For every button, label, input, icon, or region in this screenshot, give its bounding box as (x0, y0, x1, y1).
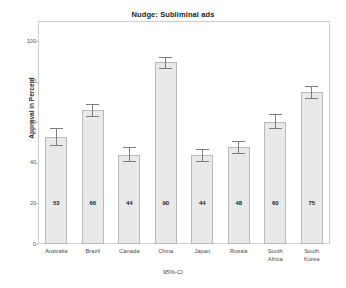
error-cap-lower (159, 68, 172, 69)
error-bar (92, 104, 93, 116)
bar-group[interactable]: 53 (45, 21, 67, 244)
bar[interactable] (118, 155, 140, 244)
y-tick-label: 0 (0, 241, 36, 247)
error-cap-upper (50, 128, 63, 129)
chart-title: Nudge: Subliminal ads (0, 10, 346, 19)
error-cap-upper (232, 141, 245, 142)
error-cap-lower (305, 98, 318, 99)
bar-group[interactable]: 75 (301, 21, 323, 244)
error-cap-upper (86, 104, 99, 105)
error-bar (129, 147, 130, 161)
bar-value-label: 48 (228, 200, 250, 206)
bar-value-label: 44 (191, 200, 213, 206)
error-cap-upper (123, 147, 136, 148)
bar-group[interactable]: 44 (191, 21, 213, 244)
bar-value-label: 53 (45, 200, 67, 206)
bar-group[interactable]: 44 (118, 21, 140, 244)
bar[interactable] (228, 147, 250, 244)
error-cap-upper (269, 114, 282, 115)
bar-value-label: 44 (118, 200, 140, 206)
y-tick-label: 100 (0, 38, 36, 44)
error-cap-lower (232, 153, 245, 154)
bar-value-label: 90 (155, 200, 177, 206)
error-bar (56, 128, 57, 144)
bar[interactable] (82, 110, 104, 244)
y-tick-label: 60 (0, 119, 36, 125)
bar[interactable] (264, 122, 286, 244)
error-cap-lower (196, 161, 209, 162)
bar-value-label: 60 (264, 200, 286, 206)
error-cap-upper (305, 86, 318, 87)
error-bar (275, 114, 276, 128)
bar-group[interactable]: 60 (264, 21, 286, 244)
error-cap-upper (196, 149, 209, 150)
bar[interactable] (301, 92, 323, 244)
error-cap-lower (123, 161, 136, 162)
chart-figure: Nudge: Subliminal ads Approval in Percen… (0, 0, 346, 288)
y-axis-label: Approval in Percent (28, 48, 35, 168)
x-tick-label: SouthKorea (290, 248, 334, 263)
bar-value-label: 75 (301, 200, 323, 206)
error-bar (165, 57, 166, 67)
plot-area: 5366449044486075 (38, 21, 330, 244)
error-bar (238, 141, 239, 153)
bar-group[interactable]: 66 (82, 21, 104, 244)
bar-value-label: 66 (82, 200, 104, 206)
y-tick-label: 80 (0, 78, 36, 84)
bar-group[interactable]: 48 (228, 21, 250, 244)
error-cap-upper (159, 57, 172, 58)
bar-group[interactable]: 90 (155, 21, 177, 244)
error-cap-lower (86, 116, 99, 117)
error-bar (311, 86, 312, 98)
x-axis-caption: 95%-CI (0, 269, 346, 275)
error-cap-lower (50, 145, 63, 146)
bar[interactable] (155, 62, 177, 244)
bar[interactable] (191, 155, 213, 244)
y-tick-mark (35, 244, 38, 245)
bar[interactable] (45, 137, 67, 244)
y-tick-label: 40 (0, 159, 36, 165)
y-tick-label: 20 (0, 200, 36, 206)
error-cap-lower (269, 128, 282, 129)
error-bar (202, 149, 203, 161)
